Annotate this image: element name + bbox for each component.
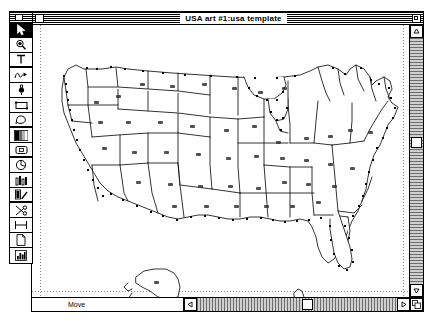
scroll-right-arrow-icon[interactable] [397, 298, 410, 311]
arrow-icon [16, 24, 27, 36]
arc-icon [15, 159, 27, 171]
bar-chart-icon [15, 250, 27, 261]
page-icon [16, 234, 26, 246]
freehand-tool[interactable] [10, 68, 32, 83]
usa-map-artwork[interactable] [32, 25, 409, 297]
column-chart-tool[interactable] [10, 173, 32, 188]
horizontal-scroll-thumb[interactable] [302, 299, 313, 310]
magnifier-icon [15, 39, 27, 51]
window-title-bar[interactable]: USA art #1:usa template [32, 12, 423, 25]
polygon-icon [15, 114, 28, 125]
close-box[interactable] [35, 14, 44, 23]
scroll-up-arrow-icon[interactable] [410, 25, 423, 38]
arc-tool[interactable] [10, 158, 32, 173]
rounded-rect-tool[interactable] [10, 143, 32, 158]
dimension-tool[interactable] [10, 218, 32, 233]
tool-list [10, 23, 32, 263]
horizontal-scroll-track[interactable] [197, 298, 397, 311]
vertical-scroll-thumb[interactable] [411, 137, 422, 148]
scissors-icon [14, 205, 28, 216]
scroll-left-arrow-icon[interactable] [184, 298, 197, 311]
bar-chart-tool[interactable] [10, 248, 32, 263]
arrow-select-tool[interactable] [10, 23, 32, 38]
tool-palette[interactable] [9, 11, 33, 264]
window-bottom-bar: Move [32, 297, 423, 311]
fill-pattern-tool[interactable] [10, 128, 32, 143]
pen-tool[interactable] [10, 188, 32, 203]
dimension-icon [14, 220, 28, 230]
horizontal-scrollbar[interactable] [184, 298, 423, 311]
gradient-icon [14, 130, 28, 141]
text-t-icon [16, 54, 26, 65]
brush-tool[interactable] [10, 83, 32, 98]
text-tool[interactable] [10, 53, 32, 68]
scroll-down-arrow-icon[interactable] [410, 284, 423, 297]
drawing-canvas[interactable] [32, 25, 409, 297]
rectangle-tool[interactable] [10, 98, 32, 113]
status-field: Move [32, 298, 184, 311]
vertical-scrollbar[interactable] [409, 25, 423, 297]
brush-icon [17, 84, 26, 96]
document-window: USA art #1:usa template [31, 11, 424, 312]
palette-close-box[interactable] [15, 14, 23, 21]
grow-box[interactable] [410, 298, 423, 311]
palette-title-bar[interactable] [10, 12, 32, 23]
status-text: Move [68, 300, 85, 309]
zoom-box[interactable] [412, 14, 421, 23]
window-title: USA art #1:usa template [180, 13, 286, 24]
page-tool[interactable] [10, 233, 32, 248]
vertical-scroll-track[interactable] [410, 38, 423, 284]
polygon-tool[interactable] [10, 113, 32, 128]
rectangle-icon [15, 100, 28, 110]
rounded-rect-icon [15, 145, 28, 155]
scissors-tool[interactable] [10, 203, 32, 218]
zoom-tool[interactable] [10, 38, 32, 53]
columns-icon [15, 175, 28, 186]
squiggle-icon [14, 70, 28, 81]
pen-icon [15, 189, 28, 200]
